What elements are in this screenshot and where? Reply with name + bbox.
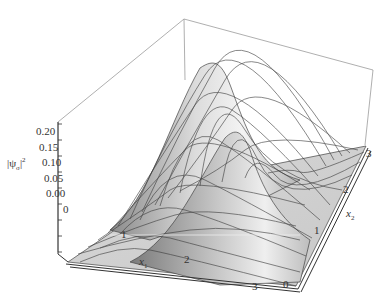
x1-tick-label: 1	[121, 229, 127, 240]
z-axis-label: |ψσ|2	[7, 157, 26, 172]
z-tick-label: 0.20	[36, 126, 55, 137]
x1-tick-label: 3	[252, 281, 258, 292]
x1-axis-label: x1	[139, 256, 147, 270]
z-label-base: |ψ	[7, 157, 16, 169]
x1-tick-label: 2	[184, 254, 190, 265]
x2-tick-label: 1	[314, 225, 320, 236]
z-tick-label: 0.10	[42, 157, 61, 168]
z-tick-label: 0.05	[44, 173, 63, 184]
x1-label-sub: 1	[144, 262, 148, 270]
z-label-sup: 2	[22, 156, 26, 164]
x2-label-sub: 2	[351, 214, 355, 222]
x2-axis-label: x2	[346, 208, 354, 222]
x2-tick-label: 0	[283, 279, 289, 290]
z-tick-label: 0.15	[39, 142, 58, 153]
x2-tick-label: 3	[366, 148, 372, 159]
z-tick-label: 0.00	[46, 188, 65, 199]
x2-tick-label: 2	[343, 184, 349, 195]
x1-tick-label: 0	[63, 204, 69, 215]
